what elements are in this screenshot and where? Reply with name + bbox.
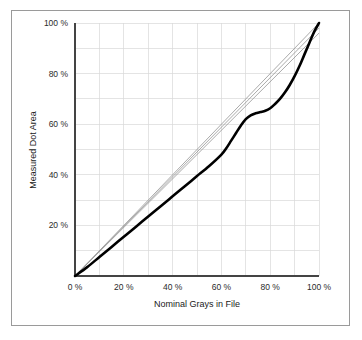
x-tick-label: 100 % <box>307 282 332 292</box>
y-tick-label: 20 % <box>49 220 69 230</box>
x-tick-label: 0 % <box>68 282 83 292</box>
x-axis-tick-labels: 0 %20 %40 %60 %80 %100 % <box>68 282 332 292</box>
x-axis-title: Nominal Grays in File <box>154 299 240 309</box>
dot-gain-chart: 20 %40 %60 %80 %100 %0 % 0 %20 %40 %60 %… <box>0 0 362 340</box>
x-tick-label: 60 % <box>212 282 232 292</box>
y-tick-label: 60 % <box>49 119 69 129</box>
y-tick-label: 80 % <box>49 69 69 79</box>
y-tick-label: 100 % <box>44 18 69 28</box>
x-tick-label: 40 % <box>163 282 183 292</box>
y-axis-title: Measured Dot Area <box>28 111 38 189</box>
y-axis-tick-labels: 20 %40 %60 %80 %100 %0 % <box>44 18 69 281</box>
y-tick-label: 40 % <box>49 170 69 180</box>
x-tick-label: 80 % <box>261 282 281 292</box>
x-tick-label: 20 % <box>114 282 134 292</box>
